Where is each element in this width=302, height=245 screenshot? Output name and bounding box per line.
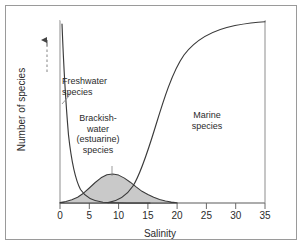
x-axis-ticks bbox=[60, 203, 265, 209]
x-tick-label: 15 bbox=[138, 210, 158, 221]
y-axis-title: Number of species bbox=[16, 45, 27, 175]
x-tick-label: 10 bbox=[109, 210, 129, 221]
x-axis-title: Salinity bbox=[110, 228, 210, 239]
x-tick-label: 35 bbox=[255, 210, 275, 221]
x-tick-label: 0 bbox=[50, 210, 70, 221]
annotation-freshwater-species: Freshwater species bbox=[62, 76, 134, 97]
annotation-brackish-water-species: Brackish- water (estuarine) species bbox=[60, 113, 136, 155]
figure-container: Freshwater species Brackish- water (estu… bbox=[0, 0, 302, 245]
species-salinity-chart bbox=[0, 0, 302, 245]
x-tick-label: 30 bbox=[226, 210, 246, 221]
x-tick-label: 20 bbox=[167, 210, 187, 221]
x-tick-label: 5 bbox=[79, 210, 99, 221]
annotation-marine-species: Marine species bbox=[176, 110, 238, 131]
x-tick-label: 25 bbox=[196, 210, 216, 221]
